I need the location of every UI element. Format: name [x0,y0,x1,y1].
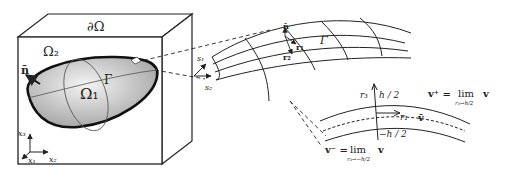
patch-vectors [285,28,296,54]
surface-patch [212,18,411,101]
axis-x1-label: x₁ [28,156,36,165]
s1-label: s₁ [197,54,204,63]
v-plus-formula: v⁺ = lim r₃→h/2 v [427,88,490,106]
axis-x3-label: x₃ [18,129,26,138]
v-plus-rhs: v [482,88,490,99]
outer-domain-label: Ω₂ [43,44,59,59]
normal-label: n̄ [21,64,29,77]
patch-normal-label: n̄ [283,21,289,31]
boundary-label: ∂Ω [87,19,105,34]
tangent-r2-label: r₂ [283,52,291,62]
surface-coordinate-axes [194,64,211,76]
s2-label: s₂ [205,83,212,92]
diagram-canvas: ∂Ω Ω₂ Ω₁ Γ n̄ x₃ x₁ x₂ n̄ r₁ r₂ Γ s₁ [0,0,508,178]
v-bar-label: v̄ [417,112,425,123]
inner-domain-label: Ω₁ [80,85,98,103]
v-minus-rhs: v [377,144,385,155]
v-plus-lhs: v⁺ = [427,88,451,99]
h-minus-label: −h / 2 [379,129,407,139]
interface-label: Γ [104,73,112,87]
axis-x2-label: x₂ [49,155,57,164]
v-plus-lim: lim [458,88,474,99]
tangent-r1-label: r₁ [296,42,304,52]
v-minus-formula: v⁻ = lim r₃→−h/2 v [324,144,385,162]
r3-label: r₃ [360,90,368,100]
r1-label: r₁ [400,112,408,122]
patch-interface-label: Γ [319,34,328,47]
h-plus-label: h / 2 [379,90,400,100]
v-plus-sub: r₃→h/2 [455,100,474,106]
v-minus-sub: r₃→−h/2 [347,156,370,162]
v-minus-lhs: v⁻ = [324,144,348,155]
v-minus-lim: lim [350,144,366,155]
